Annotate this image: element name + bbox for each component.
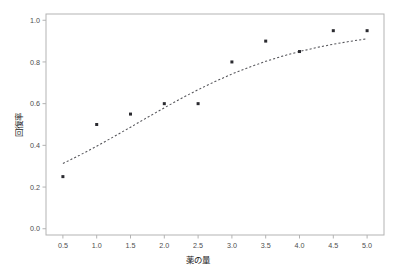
chart-background bbox=[0, 0, 396, 270]
x-axis-label: 薬の量 bbox=[186, 255, 210, 265]
x-tick-label: 3.5 bbox=[261, 241, 271, 250]
data-point-marker bbox=[163, 102, 166, 105]
y-tick-label: 0.2 bbox=[30, 183, 40, 192]
y-tick-label: 1.0 bbox=[30, 16, 40, 25]
data-point-marker bbox=[197, 102, 200, 105]
data-point-marker bbox=[366, 29, 369, 32]
data-point-marker bbox=[129, 113, 132, 116]
chart-canvas: 0.51.01.52.02.53.03.54.04.55.0 0.00.20.4… bbox=[0, 0, 396, 270]
data-point-marker bbox=[298, 50, 301, 53]
data-point-marker bbox=[230, 60, 233, 63]
x-tick-label: 3.0 bbox=[227, 241, 237, 250]
x-tick-label: 4.0 bbox=[295, 241, 305, 250]
x-tick-label: 4.5 bbox=[328, 241, 338, 250]
x-tick-label: 1.5 bbox=[126, 241, 136, 250]
data-point-marker bbox=[332, 29, 335, 32]
x-tick-label: 5.0 bbox=[362, 241, 372, 250]
x-tick-label: 1.0 bbox=[92, 241, 102, 250]
y-tick-label: 0.8 bbox=[30, 58, 40, 67]
data-point-marker bbox=[264, 40, 267, 43]
x-tick-label: 0.5 bbox=[58, 241, 68, 250]
x-tick-label: 2.0 bbox=[159, 241, 169, 250]
data-point-marker bbox=[61, 175, 64, 178]
data-point-marker bbox=[95, 123, 98, 126]
y-axis-label: 回復率 bbox=[14, 113, 24, 137]
x-tick-label: 2.5 bbox=[193, 241, 203, 250]
y-tick-label: 0.6 bbox=[30, 99, 40, 108]
y-tick-label: 0.4 bbox=[30, 141, 40, 150]
y-tick-label: 0.0 bbox=[30, 224, 40, 233]
scatter-plot-figure: 0.51.01.52.02.53.03.54.04.55.0 0.00.20.4… bbox=[0, 0, 396, 270]
